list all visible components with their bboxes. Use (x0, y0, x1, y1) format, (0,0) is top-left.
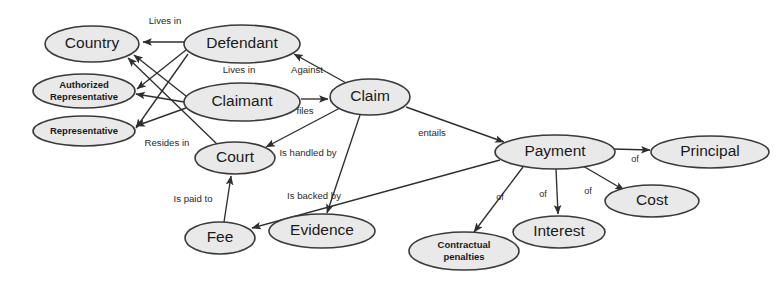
node-label-contractual: Contractualpenalties (438, 239, 491, 262)
node-label-claimant: Claimant (211, 92, 273, 109)
edge-label-court-country: Resides in (145, 137, 190, 148)
node-label-payment: Payment (524, 142, 586, 159)
node-label-defendant: Defendant (206, 34, 278, 51)
node-country[interactable]: Country (45, 26, 139, 62)
node-label-cost: Cost (636, 191, 669, 208)
edge-label-claim-court: Is handled by (279, 147, 336, 158)
node-claimant[interactable]: Claimant (184, 83, 300, 121)
edge-label-payment-principal: of (631, 154, 639, 164)
edge-label-fee-court: Is paid to (174, 193, 213, 204)
node-principal[interactable]: Principal (651, 136, 769, 168)
node-label-claim: Claim (350, 87, 390, 104)
node-evidence[interactable]: Evidence (269, 214, 375, 248)
node-payment[interactable]: Payment (495, 135, 615, 169)
edge-label-payment-cost: of (584, 186, 592, 196)
node-fee[interactable]: Fee (185, 222, 255, 254)
node-interest[interactable]: Interest (513, 216, 605, 248)
edge-label-claimant-claim: files (296, 105, 313, 116)
node-label-evidence: Evidence (290, 221, 354, 238)
node-label-principal: Principal (680, 142, 739, 159)
node-court[interactable]: Court (195, 142, 275, 174)
edge-label-claim-defendant: Against (291, 64, 323, 75)
node-label-court: Court (216, 148, 255, 165)
node-contractual[interactable]: Contractualpenalties (409, 232, 519, 270)
node-label-country: Country (65, 34, 120, 51)
edge-label-claim-evidence: Is backed by (287, 190, 341, 201)
node-label-interest: Interest (533, 222, 585, 239)
node-defendant[interactable]: Defendant (184, 25, 300, 63)
edge-label-claimant-country: Lives in (223, 64, 256, 75)
edge-claimant-authrep (136, 94, 184, 102)
edge-defendant-authrep (137, 50, 186, 89)
node-rep[interactable]: Representative (33, 116, 135, 146)
edge-label-payment-contractual: of (496, 192, 504, 202)
edge-fee-court (224, 176, 231, 222)
node-label-authrep: AuthorizedRepresentative (50, 79, 118, 102)
edge-payment-principal (613, 149, 650, 150)
edge-label-claim-payment: entails (418, 127, 446, 138)
edge-label-payment-interest: of (539, 189, 547, 199)
node-authrep[interactable]: AuthorizedRepresentative (33, 74, 135, 108)
node-claim[interactable]: Claim (330, 79, 410, 115)
concept-map-canvas: CountryAuthorizedRepresentativeRepresent… (0, 0, 776, 287)
edge-label-defendant-country: Lives in (149, 15, 182, 26)
node-cost[interactable]: Cost (605, 185, 699, 217)
node-label-fee: Fee (207, 228, 234, 245)
edge-payment-interest (556, 169, 558, 214)
node-label-rep: Representative (50, 125, 118, 136)
concept-map-svg: CountryAuthorizedRepresentativeRepresent… (0, 0, 776, 287)
